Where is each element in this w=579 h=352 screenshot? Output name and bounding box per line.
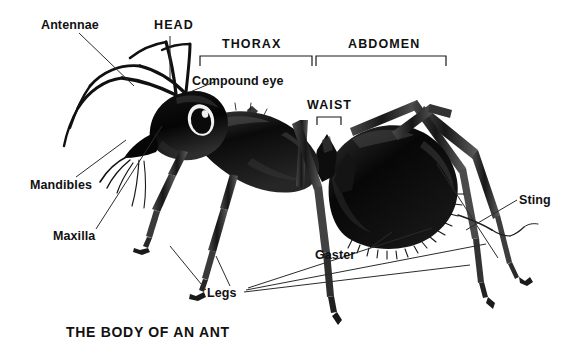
head	[124, 91, 228, 160]
label-abdomen: ABDOMEN	[348, 38, 420, 51]
bracket-thorax	[200, 56, 312, 66]
label-gaster: Gaster	[315, 249, 355, 262]
ant-body-drawing	[64, 42, 538, 325]
leg-front-near	[133, 150, 188, 255]
label-head: HEAD	[154, 19, 194, 32]
bracket-abdomen	[316, 56, 446, 66]
mandibles	[100, 156, 133, 193]
ant-anatomy-figure: Antennae HEAD THORAX ABDOMEN Compound ey…	[0, 0, 579, 352]
label-maxilla: Maxilla	[53, 230, 95, 243]
label-antennae: Antennae	[41, 19, 99, 32]
leader-maxilla	[96, 126, 162, 229]
ant-illustration	[0, 0, 579, 352]
label-thorax: THORAX	[222, 38, 281, 51]
leader-antennae	[79, 33, 134, 86]
label-waist: WAIST	[307, 99, 352, 112]
bracket-waist	[317, 117, 341, 125]
label-compound-eye: Compound eye	[192, 75, 283, 88]
leg-middle-near	[189, 174, 238, 301]
label-mandibles: Mandibles	[30, 179, 92, 192]
label-legs: Legs	[207, 287, 237, 300]
label-sting: Sting	[519, 194, 551, 207]
maxilla-palps	[132, 160, 146, 208]
leader-legs-left	[170, 246, 206, 290]
figure-title: THE BODY OF AN ANT	[66, 325, 230, 339]
leader-legs-up	[216, 256, 230, 286]
